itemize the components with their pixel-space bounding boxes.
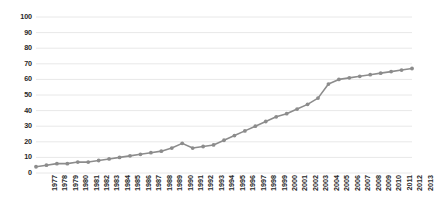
data-point	[201, 145, 205, 149]
data-point	[191, 146, 195, 150]
data-point	[327, 82, 331, 86]
data-point	[222, 138, 226, 142]
data-point	[170, 146, 174, 150]
data-point	[139, 152, 143, 156]
data-point	[97, 159, 101, 163]
series-line	[36, 68, 412, 166]
data-point	[306, 102, 310, 106]
data-point	[264, 120, 268, 124]
y-axis-tick-label: 60	[24, 76, 32, 83]
data-point	[180, 141, 184, 145]
data-point	[86, 160, 90, 164]
data-point	[212, 143, 216, 147]
data-point	[347, 76, 351, 80]
series-svg	[36, 17, 412, 173]
data-point	[285, 112, 289, 116]
data-point	[107, 157, 111, 161]
data-point	[253, 124, 257, 128]
y-axis-tick-label: 30	[24, 123, 32, 130]
y-axis-tick-label: 50	[24, 91, 32, 98]
data-point	[149, 151, 153, 155]
data-point	[379, 71, 383, 75]
y-axis-tick-label: 90	[24, 29, 32, 36]
data-point	[274, 115, 278, 119]
data-point	[389, 70, 393, 74]
data-point	[233, 134, 237, 138]
data-point	[34, 165, 38, 169]
data-point	[400, 68, 404, 72]
series-markers	[34, 67, 414, 169]
plot-area	[36, 17, 412, 173]
y-axis-tick-label: 20	[24, 138, 32, 145]
y-axis-tick-label: 40	[24, 107, 32, 114]
y-axis-tick-label: 80	[24, 45, 32, 52]
data-point	[243, 129, 247, 133]
y-axis: 0102030405060708090100	[0, 17, 32, 173]
data-point	[337, 78, 341, 82]
data-series	[36, 17, 412, 173]
y-axis-tick-label: 100	[20, 13, 32, 20]
data-point	[65, 162, 69, 166]
y-axis-tick-label: 70	[24, 60, 32, 67]
data-point	[45, 163, 49, 167]
data-point	[76, 160, 80, 164]
data-point	[410, 67, 414, 71]
data-point	[128, 154, 132, 158]
data-point	[159, 149, 163, 153]
data-point	[316, 96, 320, 100]
data-point	[118, 156, 122, 160]
data-point	[55, 162, 59, 166]
data-point	[358, 74, 362, 78]
data-point	[368, 73, 372, 77]
x-axis-tick-label: 2013	[390, 175, 434, 191]
x-axis: 1977197819791980198119821983198419851986…	[36, 175, 412, 219]
y-axis-tick-label: 10	[24, 154, 32, 161]
data-point	[295, 107, 299, 111]
